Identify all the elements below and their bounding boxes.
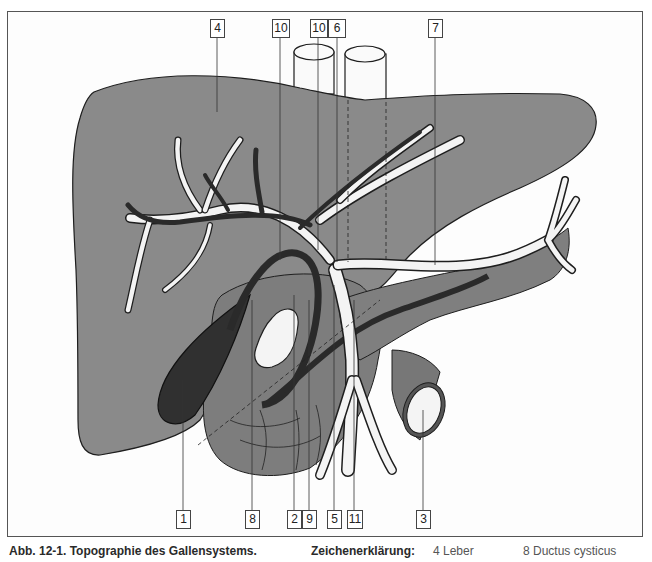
- label-2: 2: [287, 510, 302, 529]
- label-3: 3: [416, 510, 431, 529]
- aorta-section: [392, 350, 452, 443]
- biliary-system-illustration: [0, 0, 652, 562]
- label-5: 5: [327, 510, 342, 529]
- label-7: 7: [428, 19, 443, 38]
- label-10a: 10: [272, 19, 290, 38]
- figure-caption: Abb. 12-1. Topographie des Gallensystems…: [9, 544, 257, 558]
- label-9: 9: [302, 510, 317, 529]
- label-10b: 10: [310, 19, 328, 38]
- label-6: 6: [328, 19, 346, 38]
- label-8-ductus-cysticus: 8: [245, 510, 260, 529]
- legend-item-leber: 4 Leber: [433, 544, 474, 558]
- label-4-liver: 4: [210, 19, 225, 38]
- label-11: 11: [347, 510, 363, 529]
- legend-item-ductus-cysticus: 8 Ductus cysticus: [523, 544, 616, 558]
- label-1: 1: [176, 510, 191, 529]
- legend-title: Zeichenerklärung:: [311, 544, 415, 558]
